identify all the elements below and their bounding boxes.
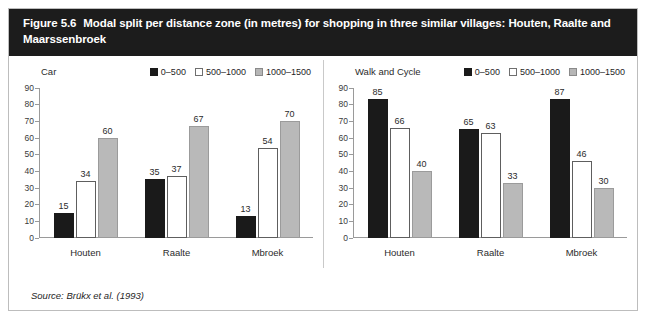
bar-value-label: 70: [284, 110, 294, 119]
plot-area-car: 153460353767135470 HoutenRaalteMbroek 90…: [39, 82, 313, 260]
y-axis-tick-label: 50: [16, 149, 34, 159]
bar-value-label: 30: [598, 177, 608, 186]
legend-car: 0–500 500–1000 1000–1500: [150, 67, 315, 77]
bar-item[interactable]: 33: [503, 88, 523, 238]
bar-value-label: 85: [372, 88, 382, 97]
y-axis-tick-label: 20: [330, 199, 348, 209]
bar[interactable]: [167, 176, 187, 238]
y-axis-tick-label: 0: [330, 233, 348, 243]
bar-item[interactable]: 65: [459, 88, 479, 238]
bar-item[interactable]: 66: [390, 88, 410, 238]
bar-item[interactable]: 46: [572, 88, 592, 238]
bar[interactable]: [412, 171, 432, 238]
bar[interactable]: [572, 161, 592, 238]
legend-label-500-1000: 500–1000: [206, 67, 246, 77]
bar-groups-walk-and-cycle: 856640656333874630: [354, 88, 627, 238]
bar[interactable]: [368, 99, 388, 238]
legend-item-500-1000: 500–1000: [509, 67, 560, 77]
x-axis-category-label: Houten: [354, 247, 445, 258]
legend-label-1000-1500: 1000–1500: [580, 67, 625, 77]
bar-item[interactable]: 87: [550, 88, 570, 238]
bar-item[interactable]: 63: [481, 88, 501, 238]
charts-area: Car 0–500 500–1000 1000–1500: [9, 56, 637, 270]
legend-item-0-500: 0–500: [150, 67, 186, 77]
bar[interactable]: [503, 183, 523, 238]
y-axis-tick-label: 50: [330, 149, 348, 159]
bar[interactable]: [54, 213, 74, 238]
y-axis-tick-label: 10: [330, 216, 348, 226]
chart-panel-car: Car 0–500 500–1000 1000–1500: [9, 62, 323, 270]
x-axis-category-label: Mbroek: [536, 247, 627, 258]
bar-group: 135470: [222, 88, 313, 238]
chart-caption-walk-and-cycle: Walk and Cycle: [355, 66, 421, 77]
bar[interactable]: [481, 133, 501, 238]
y-axis-tick-label: 70: [16, 116, 34, 126]
source-note: Source: Brükx et al. (1993): [31, 290, 144, 301]
legend-item-1000-1500: 1000–1500: [255, 67, 311, 77]
bar-group: 353767: [131, 88, 222, 238]
bar-item[interactable]: 67: [189, 88, 209, 238]
bar[interactable]: [258, 148, 278, 238]
bar-item[interactable]: 54: [258, 88, 278, 238]
legend-swatch-icon-0-500: [150, 68, 158, 76]
chart-panel-walk-and-cycle: Walk and Cycle 0–500 500–1000 1000–1500: [323, 62, 637, 270]
y-axis-tick-label: 40: [330, 166, 348, 176]
legend-swatch-icon-1000-1500: [255, 68, 263, 76]
bar[interactable]: [550, 99, 570, 238]
x-axis-category-label: Raalte: [445, 247, 536, 258]
bar-item[interactable]: 60: [98, 88, 118, 238]
bar-value-label: 33: [507, 172, 517, 181]
legend-swatch-icon-0-500: [464, 68, 472, 76]
bar[interactable]: [280, 121, 300, 238]
legend-swatch-icon-500-1000: [195, 68, 203, 76]
bar-item[interactable]: 40: [412, 88, 432, 238]
bar-value-label: 40: [416, 160, 426, 169]
legend-walk-and-cycle: 0–500 500–1000 1000–1500: [464, 67, 629, 77]
bar-item[interactable]: 35: [145, 88, 165, 238]
bar[interactable]: [76, 181, 96, 238]
bar[interactable]: [594, 188, 614, 238]
bar-item[interactable]: 70: [280, 88, 300, 238]
bar-item[interactable]: 13: [236, 88, 256, 238]
x-axis-category-label: Mbroek: [222, 247, 313, 258]
bar-group: 874630: [536, 88, 627, 238]
legend-label-500-1000: 500–1000: [520, 67, 560, 77]
bar-item[interactable]: 37: [167, 88, 187, 238]
chart-caption-car: Car: [41, 66, 56, 77]
legend-label-0-500: 0–500: [161, 67, 186, 77]
bar-value-label: 67: [193, 115, 203, 124]
bar-group: 856640: [354, 88, 445, 238]
legend-swatch-icon-500-1000: [509, 68, 517, 76]
figure-number: Figure 5.6: [23, 17, 76, 29]
legend-item-500-1000: 500–1000: [195, 67, 246, 77]
bar-value-label: 15: [58, 202, 68, 211]
bar-value-label: 66: [394, 117, 404, 126]
bar-group: 153460: [40, 88, 131, 238]
bar[interactable]: [145, 179, 165, 237]
bar-item[interactable]: 85: [368, 88, 388, 238]
chart-header-car: Car 0–500 500–1000 1000–1500: [15, 62, 315, 82]
bar-value-label: 54: [262, 137, 272, 146]
bar[interactable]: [390, 128, 410, 238]
y-axis-tick-label: 0: [16, 233, 34, 243]
x-axis-labels-walk-and-cycle: HoutenRaalteMbroek: [354, 247, 627, 258]
y-axis-tick-label: 40: [16, 166, 34, 176]
figure-title-bar: Figure 5.6Modal split per distance zone …: [9, 9, 637, 56]
bar[interactable]: [189, 126, 209, 238]
bar[interactable]: [459, 129, 479, 237]
bar-value-label: 87: [554, 88, 564, 97]
x-axis-labels-car: HoutenRaalteMbroek: [40, 247, 313, 258]
y-axis-tick-label: 90: [16, 83, 34, 93]
bar-item[interactable]: 15: [54, 88, 74, 238]
bar[interactable]: [98, 138, 118, 238]
bar[interactable]: [236, 216, 256, 238]
y-axis-tick-label: 90: [330, 83, 348, 93]
legend-item-1000-1500: 1000–1500: [569, 67, 625, 77]
bar-item[interactable]: 30: [594, 88, 614, 238]
plot-area-walk-and-cycle: 856640656333874630 HoutenRaalteMbroek 90…: [353, 82, 627, 260]
chart-header-walk-and-cycle: Walk and Cycle 0–500 500–1000 1000–1500: [329, 62, 629, 82]
bar-value-label: 65: [463, 118, 473, 127]
bar-item[interactable]: 34: [76, 88, 96, 238]
legend-label-0-500: 0–500: [475, 67, 500, 77]
y-axis-tick-label: 20: [16, 199, 34, 209]
